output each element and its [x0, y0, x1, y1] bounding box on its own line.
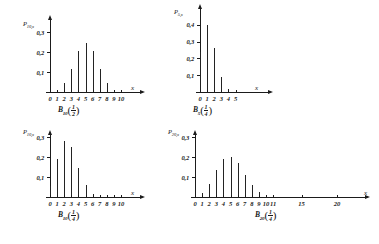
y-axis-arrow: [48, 15, 52, 20]
x-tick-label: 9: [252, 200, 266, 208]
chart-panel: P5,xx0,10,20,30,4012345B5(14): [0, 0, 379, 244]
x-tick: [64, 195, 65, 197]
y-tick-label: 0,3: [167, 134, 189, 141]
x-tick: [214, 90, 215, 92]
y-tick-label: 0,1: [22, 174, 44, 181]
x-axis-label: x: [364, 189, 367, 197]
x-tick: [266, 195, 267, 197]
panel-caption: B10(12): [58, 104, 79, 117]
x-tick-label: 11: [266, 200, 280, 208]
x-tick-label: 7: [93, 200, 107, 208]
y-axis-arrow: [193, 130, 197, 135]
y-tick-label: 0,4: [172, 21, 194, 28]
x-tick: [71, 90, 72, 92]
stem-bar: [93, 194, 94, 197]
x-tick-label: 3: [64, 95, 78, 103]
x-tick-label: 3: [209, 200, 223, 208]
x-tick: [121, 195, 122, 197]
stem-bar: [252, 185, 253, 197]
x-tick-label: 10: [259, 200, 273, 208]
x-tick: [78, 195, 79, 197]
chart-panel: P10,xx0,10,20,3012345678910B10(14): [0, 0, 379, 244]
x-axis-label: x: [131, 189, 134, 197]
x-tick: [121, 90, 122, 92]
x-axis-arrow: [140, 195, 145, 199]
x-tick-label: 5: [224, 200, 238, 208]
stem-bar: [238, 163, 239, 197]
stem-bar: [86, 43, 87, 92]
y-tick-label: 0,3: [22, 29, 44, 36]
y-tick-label: 0,1: [172, 72, 194, 79]
x-tick-label: 20: [330, 200, 344, 208]
x-tick-label: 9: [107, 200, 121, 208]
x-tick: [259, 195, 260, 197]
y-axis: [50, 20, 51, 92]
x-tick-label: 10: [114, 200, 128, 208]
stem-bar: [86, 185, 87, 197]
stem-bar: [195, 196, 196, 197]
x-tick: [71, 195, 72, 197]
x-tick-label: 8: [100, 200, 114, 208]
stem-bar: [71, 147, 72, 197]
x-tick-label: 0: [193, 95, 207, 103]
x-tick: [302, 195, 303, 197]
x-tick: [231, 195, 232, 197]
stem-bar: [100, 196, 101, 197]
x-tick-label: 8: [100, 95, 114, 103]
y-tick-label: 0,3: [172, 38, 194, 45]
y-tick-label: 0,2: [22, 49, 44, 56]
stem-bar: [207, 25, 208, 92]
y-tick-label: 0,2: [167, 154, 189, 161]
x-axis: [191, 197, 365, 198]
x-tick: [57, 90, 58, 92]
y-axis-label: P10,x: [23, 128, 34, 137]
chart-panel: P10,xx0,10,20,3012345678910B10(12): [0, 0, 379, 244]
x-axis: [46, 92, 140, 93]
y-tick: [192, 177, 195, 178]
x-tick-label: 15: [295, 200, 309, 208]
x-tick-label: 5: [79, 95, 93, 103]
y-tick: [47, 137, 50, 138]
x-tick-label: 6: [231, 200, 245, 208]
y-axis: [195, 135, 196, 197]
x-tick: [50, 90, 51, 92]
y-tick-label: 0,1: [22, 69, 44, 76]
x-tick-label: 4: [216, 200, 230, 208]
x-tick: [86, 90, 87, 92]
stem-bar: [221, 77, 222, 92]
stem-bar: [259, 192, 260, 197]
x-tick: [195, 195, 196, 197]
x-tick: [93, 195, 94, 197]
x-tick: [223, 195, 224, 197]
x-tick-label: 1: [200, 95, 214, 103]
x-axis-arrow: [140, 90, 145, 94]
x-tick: [273, 195, 274, 197]
x-tick: [207, 90, 208, 92]
stem-bar: [200, 52, 201, 92]
stem-bar: [78, 168, 79, 197]
y-axis-label: P5,x: [174, 8, 183, 17]
y-tick: [47, 52, 50, 53]
x-tick: [245, 195, 246, 197]
y-tick-label: 0,3: [22, 134, 44, 141]
y-tick: [192, 137, 195, 138]
y-tick: [47, 177, 50, 178]
x-tick: [50, 195, 51, 197]
x-tick-label: 7: [238, 200, 252, 208]
x-tick: [93, 90, 94, 92]
x-tick-label: 2: [57, 200, 71, 208]
x-tick: [228, 90, 229, 92]
stem-bar: [214, 48, 215, 92]
y-tick: [47, 32, 50, 33]
x-tick: [114, 195, 115, 197]
x-tick-label: 0: [188, 200, 202, 208]
x-tick-label: 8: [245, 200, 259, 208]
x-tick: [337, 195, 338, 197]
x-axis-label: x: [131, 84, 134, 92]
x-tick: [236, 90, 237, 92]
x-tick: [78, 90, 79, 92]
stem-bar: [273, 196, 274, 197]
stem-bar: [100, 69, 101, 92]
x-tick: [64, 90, 65, 92]
stem-bar: [64, 83, 65, 92]
